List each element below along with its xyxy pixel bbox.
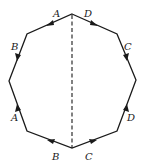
label-upper-right: C	[124, 41, 132, 52]
label-top-right: D	[83, 8, 92, 19]
arrow-icon-bottom-left	[47, 139, 55, 144]
arrow-icon-bottom-right	[89, 139, 97, 144]
label-bottom-left: B	[51, 151, 59, 162]
label-lower-left: A	[10, 112, 18, 123]
arrow-icon-top-right	[90, 20, 98, 26]
label-lower-right: D	[126, 112, 135, 123]
label-top-left: A	[52, 8, 60, 19]
arrow-icon-upper-left	[15, 53, 21, 61]
arrow-icon-top-left	[46, 20, 54, 26]
octagon-diagram: A D B C A D B C	[0, 0, 142, 165]
label-upper-left: B	[10, 41, 18, 52]
label-bottom-right: C	[85, 151, 93, 162]
